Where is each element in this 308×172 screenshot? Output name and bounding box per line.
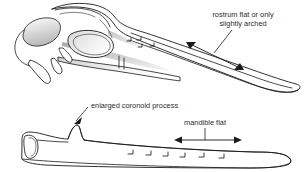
coronoid-leader-line — [76, 107, 88, 121]
mandible-outline — [22, 125, 291, 168]
cranium-contour-1 — [60, 12, 95, 17]
coronoid-label: enlarged coronoid process — [91, 101, 178, 110]
coronoid-annotation: enlarged coronoid process — [74, 101, 178, 124]
mandible-annotation: mandible flat — [174, 118, 242, 144]
skull-orbit — [68, 30, 114, 57]
rostrum-label-line1: rostrum flat or only — [212, 10, 274, 19]
mandible-label: mandible flat — [184, 118, 226, 127]
quadrate-process — [28, 60, 50, 83]
rostrum-leader-line — [214, 30, 232, 53]
temporal-fossa — [23, 18, 61, 46]
coronoid-arrowhead — [74, 117, 82, 124]
skull-mandible-diagram: rostrum flat or only slightly arched enl… — [0, 0, 308, 172]
diagram-canvas: rostrum flat or only slightly arched enl… — [0, 0, 308, 172]
mandible-arrowhead-left — [174, 137, 182, 144]
rostrum-label-line2: slightly arched — [219, 19, 266, 28]
mandible-drawing — [22, 125, 291, 168]
mandible-arrowhead-right — [234, 137, 242, 144]
